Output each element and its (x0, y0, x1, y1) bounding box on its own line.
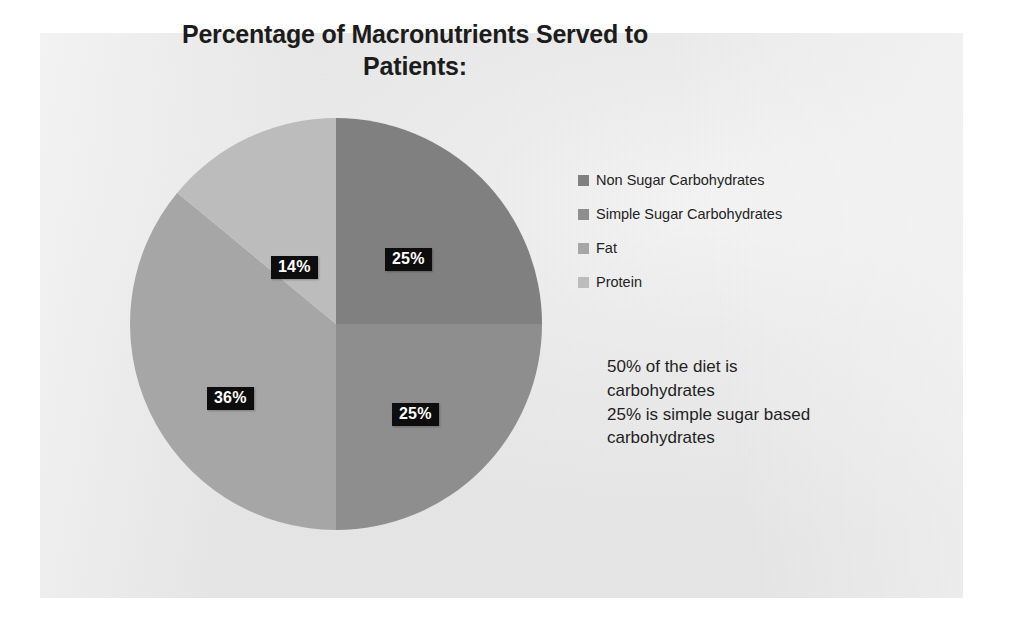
legend-swatch-icon (578, 209, 589, 220)
chart-title-line-1: Percentage of Macronutrients Served to (135, 18, 695, 50)
legend-label: Fat (596, 240, 617, 256)
legend-item-protein: Protein (578, 265, 878, 299)
legend-item-fat: Fat (578, 231, 878, 265)
slice-label-non-sugar-carbohydrates: 25% (385, 248, 432, 271)
annotation-line-2: carbohydrates (607, 379, 897, 403)
slide-photo: Percentage of Macronutrients Served to P… (0, 0, 1009, 625)
legend-item-simple-sugar-carbohydrates: Simple Sugar Carbohydrates (578, 197, 878, 231)
legend-swatch-icon (578, 277, 589, 288)
slice-label-simple-sugar-carbohydrates: 25% (392, 403, 439, 426)
slice-label-fat: 36% (207, 387, 254, 410)
legend-swatch-icon (578, 243, 589, 254)
chart-legend: Non Sugar Carbohydrates Simple Sugar Car… (578, 163, 878, 299)
legend-label: Protein (596, 274, 642, 290)
annotation-line-3: 25% is simple sugar based (607, 403, 897, 427)
pie-slice-group (130, 118, 542, 530)
annotation-line-4: carbohydrates (607, 426, 897, 450)
pie-chart: 25% 25% 36% 14% (127, 115, 545, 533)
pie-slice (336, 324, 542, 530)
chart-title-line-2: Patients: (135, 50, 695, 82)
legend-item-non-sugar-carbohydrates: Non Sugar Carbohydrates (578, 163, 878, 197)
legend-label: Non Sugar Carbohydrates (596, 172, 764, 188)
pie-slice (336, 118, 542, 324)
pie-chart-svg (127, 115, 545, 533)
chart-annotation: 50% of the diet is carbohydrates 25% is … (607, 355, 897, 450)
legend-label: Simple Sugar Carbohydrates (596, 206, 782, 222)
legend-swatch-icon (578, 175, 589, 186)
annotation-line-1: 50% of the diet is (607, 355, 897, 379)
slice-label-protein: 14% (271, 256, 318, 279)
chart-title: Percentage of Macronutrients Served to P… (135, 18, 695, 82)
